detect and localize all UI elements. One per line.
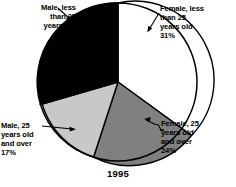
pie-chart-figure: Male, less than 25 years old 28% Female,…: [0, 0, 236, 187]
chart-title: 1995: [0, 168, 236, 179]
slice-label-male-less-than-25: Male, less than 25 years old 28%: [2, 4, 76, 40]
slice-label-male-25-and-over: Male, 25 years old and over 17%: [1, 122, 71, 158]
slice-label-female-25-and-over: Female, 25 years old and over 24%: [161, 120, 234, 156]
slice-label-female-less-than-25: Female, less than 25 years old 31%: [160, 5, 234, 41]
